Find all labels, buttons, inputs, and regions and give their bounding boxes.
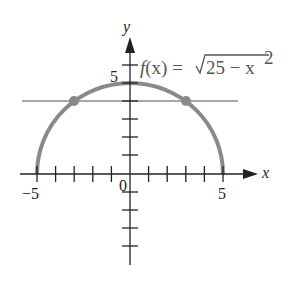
function-graph: y x −5 0 5 5 f(x) = 25 − x 2: [0, 0, 291, 283]
y-axis-arrow-icon: [125, 37, 135, 53]
intersection-point-left: [69, 96, 79, 106]
y-tick-label-5: 5: [110, 68, 118, 85]
origin-label: 0: [119, 177, 127, 194]
x-axis-label: x: [261, 164, 269, 181]
x-tick-label-5: 5: [218, 185, 226, 202]
intersection-point-right: [181, 96, 191, 106]
x-axis-arrow-icon: [243, 169, 258, 179]
svg-text:25 − x: 25 − x: [206, 57, 255, 78]
svg-text:f(x) =: f(x) =: [140, 57, 183, 79]
svg-text:2: 2: [264, 47, 274, 68]
x-tick-label-neg5: −5: [22, 185, 39, 202]
function-label: f(x) = 25 − x 2: [140, 47, 274, 79]
y-axis-label: y: [121, 18, 131, 36]
